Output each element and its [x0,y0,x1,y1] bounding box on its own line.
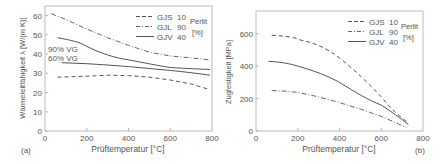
figure-svg: 0 10 20 30 40 50 60 0 200 400 600 800 Pr… [0,0,448,164]
chart-b-x-axis: 0 200 400 600 800 [254,128,430,143]
legend-gjl-label: GJL [157,23,172,32]
chart-b-frame [256,11,423,131]
legend-gjv-value: 40 [389,38,398,47]
chart-b-series-gjv [269,61,409,124]
chart-b-ytick: 200 [240,95,254,104]
chart-a-ytick: 50 [33,31,42,40]
chart-b-xlabel: Prüftemperatur [°C] [302,144,375,154]
chart-b: 0 200 400 600 0 200 400 600 800 Prüftemp… [224,11,430,155]
chart-b-ytick: 400 [240,62,254,71]
chart-b-series-gjl [272,91,407,128]
chart-b-panel-label: (b) [415,146,425,155]
chart-b-xtick: 400 [333,134,347,143]
chart-a-xtick: 400 [122,134,136,143]
chart-a-ylabel: Wärmeleitfähigkeit λ [W/(m K)] [18,17,27,118]
chart-b-xtick: 600 [375,134,389,143]
chart-a-annotation-60vg: 60% VG [48,54,78,63]
chart-b-ylabel: Zugfestigkeit [MPa] [224,40,233,104]
chart-a-xtick: 200 [80,134,94,143]
chart-a-xtick: 800 [205,134,219,143]
chart-a-xtick: 0 [43,134,48,143]
chart-a: 0 10 20 30 40 50 60 0 200 400 600 800 Pr… [18,6,219,155]
chart-a-series-gjv-90 [58,38,211,70]
chart-b-ytick: 600 [240,30,254,39]
chart-b-xtick: 200 [291,134,305,143]
legend-gjv-label: GJV [157,33,173,42]
legend-gjl-label: GJL [369,28,384,37]
legend-gjs-label: GJS [369,18,385,27]
figure: 0 10 20 30 40 50 60 0 200 400 600 800 Pr… [0,0,448,164]
legend-gjv-value: 40 [177,33,186,42]
legend-gjs-value: 10 [389,18,398,27]
legend-group-unit: [%] [192,28,203,37]
chart-a-x-axis: 0 200 400 600 800 [43,128,219,143]
legend-group-label: Perlit [401,22,419,31]
chart-a-ytick: 40 [33,50,42,59]
chart-a-series-gjs [58,75,211,90]
chart-a-y-axis: 0 10 20 30 40 50 60 [33,12,48,136]
chart-a-annotation-90vg: 90% VG [48,45,78,54]
legend-group-unit: [%] [403,33,414,42]
chart-a-ytick: 20 [33,89,42,98]
legend-gjs-value: 10 [177,13,186,22]
legend-gjv-label: GJV [369,38,385,47]
chart-a-xlabel: Prüftemperatur [°C] [91,144,164,154]
legend-gjl-value: 90 [389,28,398,37]
chart-b-legend: GJS 10 GJL 90 GJV 40 Perlit [%] [348,18,419,47]
chart-b-xtick: 0 [254,134,259,143]
chart-a-panel-label: (a) [21,146,31,155]
legend-gjl-value: 90 [177,23,186,32]
chart-a-ytick: 10 [33,108,42,117]
chart-a-xtick: 600 [164,134,178,143]
legend-group-label: Perlit [190,17,208,26]
legend-gjs-label: GJS [157,13,173,22]
chart-a-ytick: 60 [33,12,42,21]
chart-a-ytick: 30 [33,69,42,78]
chart-a-legend: GJS 10 GJL 90 GJV 40 Perlit [%] [136,13,208,42]
chart-b-xtick: 800 [416,134,430,143]
